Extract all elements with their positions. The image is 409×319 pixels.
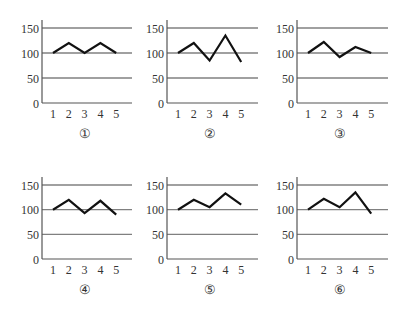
x-tick-label: 4 [97,107,103,121]
y-tick-label: 50 [27,72,39,86]
chart-label: ④ [79,282,91,297]
data-line [308,192,371,213]
chart-label: ⑤ [204,282,216,297]
x-tick-label: 1 [175,263,181,277]
x-tick-label: 3 [207,107,213,121]
x-tick-label: 3 [207,263,213,277]
x-tick-label: 2 [191,263,197,277]
x-tick-label: 2 [191,107,197,121]
x-tick-label: 5 [238,107,244,121]
x-tick-label: 4 [352,263,358,277]
x-tick-label: 1 [50,107,56,121]
y-tick-label: 100 [21,203,39,217]
x-tick-label: 3 [337,263,343,277]
x-tick-label: 4 [222,107,228,121]
x-tick-label: 1 [305,263,311,277]
x-tick-label: 1 [50,263,56,277]
y-tick-label: 0 [158,97,164,111]
y-tick-label: 50 [282,72,294,86]
y-tick-label: 0 [288,253,294,267]
y-tick-label: 100 [276,47,294,61]
chart-grid: 05010015012345①05010015012345②0501001501… [0,0,409,319]
x-tick-label: 2 [321,107,327,121]
x-tick-label: 1 [305,107,311,121]
x-tick-label: 5 [368,107,374,121]
y-tick-label: 0 [288,97,294,111]
y-tick-label: 150 [21,22,39,36]
data-line [178,193,241,209]
x-tick-label: 3 [82,263,88,277]
y-tick-label: 100 [21,47,39,61]
x-tick-label: 2 [66,263,72,277]
data-line [178,36,241,63]
chart-label: ② [204,126,216,141]
y-tick-label: 150 [276,179,294,193]
y-tick-label: 0 [158,253,164,267]
y-tick-label: 100 [276,203,294,217]
x-tick-label: 5 [368,263,374,277]
x-tick-label: 4 [222,263,228,277]
y-tick-label: 0 [33,97,39,111]
x-tick-label: 5 [113,263,119,277]
charts-svg: 05010015012345①05010015012345②0501001501… [0,0,409,319]
y-tick-label: 50 [282,228,294,242]
y-tick-label: 150 [146,22,164,36]
y-tick-label: 0 [33,253,39,267]
y-tick-label: 150 [21,179,39,193]
data-line [53,200,116,215]
x-tick-label: 2 [66,107,72,121]
data-line [308,42,371,57]
chart-label: ⑥ [334,282,346,297]
x-tick-label: 5 [238,263,244,277]
y-tick-label: 50 [152,228,164,242]
x-tick-label: 4 [352,107,358,121]
data-line [53,43,116,53]
y-tick-label: 50 [152,72,164,86]
chart-label: ① [79,126,91,141]
x-tick-label: 1 [175,107,181,121]
x-tick-label: 5 [113,107,119,121]
x-tick-label: 3 [82,107,88,121]
x-tick-label: 2 [321,263,327,277]
x-tick-label: 4 [97,263,103,277]
y-tick-label: 150 [146,179,164,193]
y-tick-label: 100 [146,47,164,61]
y-tick-label: 150 [276,22,294,36]
y-tick-label: 50 [27,228,39,242]
chart-label: ③ [334,126,346,141]
x-tick-label: 3 [337,107,343,121]
y-tick-label: 100 [146,203,164,217]
